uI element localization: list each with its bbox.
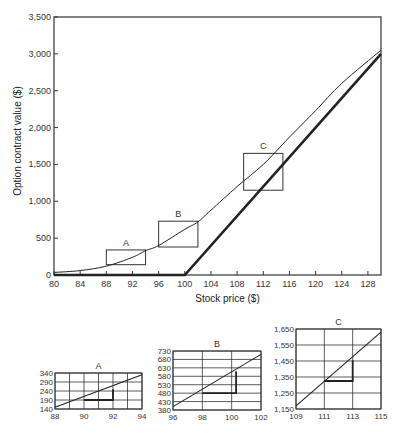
main-chart: 808488929610010410811211612012412805001,… xyxy=(12,12,381,304)
y-tick-label: 1,450 xyxy=(274,357,295,366)
y-tick-label: 680 xyxy=(158,355,172,364)
y-tick-label: 1,550 xyxy=(274,341,295,350)
y-tick-label: 1,150 xyxy=(274,405,295,414)
zoom-box-a xyxy=(106,250,145,265)
y-tick-label: 190 xyxy=(40,396,54,405)
inset-title: A xyxy=(95,361,101,371)
x-tick-label: 102 xyxy=(254,413,268,422)
y-tick-label: 2,500 xyxy=(28,86,51,96)
y-tick-label: 1,650 xyxy=(274,325,295,334)
x-tick-label: 120 xyxy=(308,279,323,289)
x-tick-label: 96 xyxy=(154,279,164,289)
y-tick-label: 480 xyxy=(158,389,172,398)
y-tick-label: 2,000 xyxy=(28,123,51,133)
x-tick-label: 94 xyxy=(138,412,147,421)
option-value-line xyxy=(173,354,261,406)
zoom-box-label: C xyxy=(260,141,267,151)
x-tick-label: 84 xyxy=(75,279,85,289)
x-tick-label: 80 xyxy=(49,279,59,289)
option-value-line xyxy=(296,332,381,406)
x-tick-label: 92 xyxy=(109,412,118,421)
y-tick-label: 630 xyxy=(158,364,172,373)
inset-chart-a: A88909294140190240290340 xyxy=(40,361,147,421)
inset-title: B xyxy=(214,339,220,349)
x-axis-label: Stock price ($) xyxy=(195,293,259,304)
y-tick-label: 240 xyxy=(40,387,54,396)
x-tick-label: 104 xyxy=(203,279,218,289)
x-tick-label: 98 xyxy=(198,413,207,422)
x-tick-label: 124 xyxy=(334,279,349,289)
y-tick-label: 500 xyxy=(36,233,51,243)
inset-chart-b: B9698100102380430480530580630680730 xyxy=(158,339,269,422)
inset-chart-c: C1091111131151,1501,2501,3501,4501,5501,… xyxy=(274,317,388,421)
y-tick-label: 580 xyxy=(158,372,172,381)
y-tick-label: 730 xyxy=(158,347,172,356)
x-tick-label: 90 xyxy=(80,412,89,421)
x-tick-label: 100 xyxy=(225,413,239,422)
x-tick-label: 88 xyxy=(101,279,111,289)
option-value-figure: 808488929610010410811211612012412805001,… xyxy=(0,0,397,435)
y-tick-label: 0 xyxy=(46,270,51,280)
y-tick-label: 1,500 xyxy=(28,159,51,169)
y-axis-label: Option contract value ($) xyxy=(12,86,23,196)
y-tick-label: 140 xyxy=(40,405,54,414)
y-tick-label: 430 xyxy=(158,398,172,407)
x-tick-label: 116 xyxy=(282,279,296,289)
y-tick-label: 290 xyxy=(40,378,54,387)
y-tick-label: 530 xyxy=(158,381,172,390)
x-tick-label: 108 xyxy=(230,279,245,289)
x-tick-label: 115 xyxy=(375,412,388,421)
intrinsic-value-line xyxy=(54,54,381,275)
inset-title: C xyxy=(335,317,342,327)
x-tick-label: 111 xyxy=(318,412,331,421)
zoom-box-label: B xyxy=(175,209,181,219)
y-tick-label: 3,500 xyxy=(28,12,51,22)
x-tick-label: 112 xyxy=(256,279,270,289)
x-tick-label: 128 xyxy=(360,279,375,289)
y-tick-label: 1,000 xyxy=(28,196,51,206)
y-tick-label: 1,350 xyxy=(274,373,295,382)
y-tick-label: 3,000 xyxy=(28,49,51,59)
x-tick-label: 113 xyxy=(346,412,359,421)
y-tick-label: 340 xyxy=(40,369,54,378)
x-tick-label: 100 xyxy=(177,279,192,289)
slope-triangle xyxy=(202,371,236,393)
y-tick-label: 1,250 xyxy=(274,389,295,398)
y-tick-label: 380 xyxy=(158,406,172,415)
zoom-box-label: A xyxy=(123,238,129,248)
x-tick-label: 92 xyxy=(127,279,137,289)
